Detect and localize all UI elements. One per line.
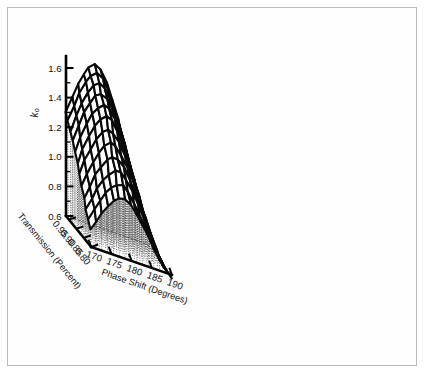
z-tick-label: 1.0 [48,151,61,162]
z-tick-label: 1.4 [48,92,62,103]
z-tick-label: 1.2 [48,122,61,133]
z-axis-title: k₀ [29,108,40,117]
figure-container: 0.60.81.01.21.41.6k₀170175180185190Phase… [0,0,426,375]
surface-plot: 0.60.81.01.21.41.6k₀170175180185190Phase… [0,0,426,375]
z-tick-label: 1.6 [48,63,61,74]
z-tick-label: 0.8 [48,181,61,192]
